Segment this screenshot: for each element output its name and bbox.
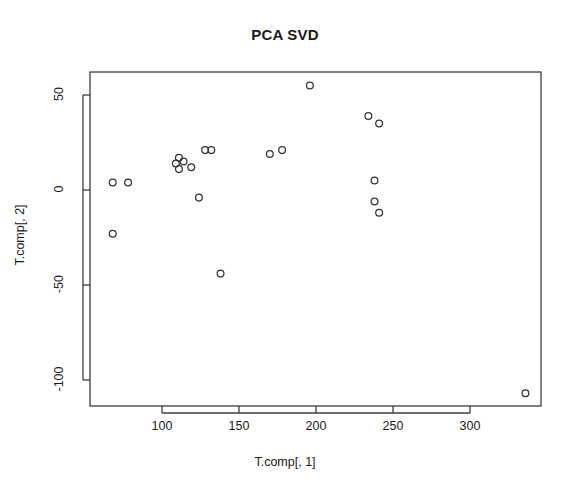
x-axis-tick-label: 150 <box>217 419 261 433</box>
y-axis-tick-label: -50 <box>52 262 66 306</box>
x-axis-tick-label: 300 <box>448 419 492 433</box>
plot-frame <box>90 72 541 406</box>
y-axis-tick-label: 50 <box>52 72 66 116</box>
data-point <box>109 179 116 186</box>
data-point <box>176 166 183 173</box>
data-point <box>176 154 183 161</box>
data-point <box>365 113 372 120</box>
data-point <box>109 230 116 237</box>
data-point <box>188 164 195 171</box>
x-axis-title: T.comp[, 1] <box>0 455 570 469</box>
data-point <box>371 198 378 205</box>
data-point <box>376 209 383 216</box>
data-point <box>266 151 273 158</box>
plot-figure: PCA SVD T.comp[, 2] T.comp[, 1] 10015020… <box>0 0 570 497</box>
y-axis-tick-label: -100 <box>52 357 66 401</box>
data-point <box>371 177 378 184</box>
data-point <box>217 270 224 277</box>
data-point <box>196 194 203 201</box>
y-axis-tick-label: 0 <box>52 167 66 211</box>
data-point <box>376 120 383 127</box>
data-point <box>279 147 286 154</box>
x-axis-tick-label: 250 <box>371 419 415 433</box>
data-point <box>306 82 313 89</box>
data-point <box>522 390 529 397</box>
data-point <box>180 158 187 165</box>
y-axis-title: T.comp[, 2] <box>13 155 27 315</box>
x-axis-tick-label: 100 <box>140 419 184 433</box>
x-axis-tick-label: 200 <box>294 419 338 433</box>
data-point <box>125 179 132 186</box>
